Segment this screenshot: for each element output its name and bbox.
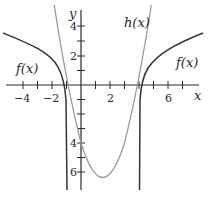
h-curve <box>54 5 151 178</box>
x-axis-label: x <box>194 88 202 103</box>
function-graph: −4 −2 2 6 4 2 4 6 x y f(x) f(x) h(x) <box>0 0 211 199</box>
y-tick-label-2: 2 <box>70 50 77 63</box>
y-tick-label-neg6: 6 <box>70 166 77 179</box>
x-tick-label-2: 2 <box>107 92 114 105</box>
x-tick-label-neg4: −4 <box>14 92 30 105</box>
f-label-right: f(x) <box>175 55 198 70</box>
y-tick-label-4: 4 <box>70 20 77 33</box>
x-tick-label-6: 6 <box>165 92 172 105</box>
y-axis-label: y <box>68 6 77 21</box>
y-tick-label-neg4: 4 <box>70 137 77 150</box>
x-tick-label-neg2: −2 <box>43 92 59 105</box>
f-curve-left <box>3 33 67 190</box>
h-label: h(x) <box>124 15 150 30</box>
f-label-left: f(x) <box>15 61 38 76</box>
